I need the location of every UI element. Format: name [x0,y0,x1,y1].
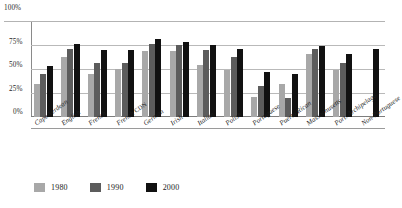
bar-1990 [67,49,73,117]
bar-1980 [197,65,203,117]
bar-1990 [312,49,318,117]
legend-swatch-icon [146,183,157,192]
bar-group [142,22,169,117]
bar-1980 [88,74,94,117]
bar-1990 [122,63,128,117]
bar-group [224,22,251,117]
legend-swatch-icon [34,183,45,192]
y-axis-tick-100: 100% [4,4,21,12]
y-axis-tick-25: 25% [9,85,22,93]
legend-label: 2000 [163,183,180,192]
bar-1980 [333,70,339,117]
legend-item-2000: 2000 [146,183,180,192]
bar-1990 [149,44,155,117]
bar-1990 [340,63,346,117]
legend-item-1990: 1990 [90,183,124,192]
bar-1990 [231,57,237,117]
bar-1990 [94,63,100,117]
bar-1980 [224,70,230,118]
bar-2000 [183,42,189,117]
legend-label: 1980 [51,183,68,192]
legend-item-1980: 1980 [34,183,68,192]
bar-1980 [251,97,257,117]
legend-label: 1990 [107,183,124,192]
y-axis-tick-0: 0% [13,108,23,116]
bar-2000 [210,45,216,117]
legend-swatch-icon [90,183,101,192]
bar-1980 [34,84,40,117]
bar-1980 [279,84,285,117]
bar-group [197,22,224,117]
bar-group [88,22,115,117]
bar-1990 [203,50,209,117]
y-axis-tick-50: 50% [9,61,22,69]
bar-1990 [176,45,182,117]
bar-2000 [101,50,107,117]
bar-2000 [237,49,243,117]
legend: 1980 1990 2000 [34,183,201,192]
bottom-rule [31,128,385,129]
bar-1980 [115,69,121,117]
bar-2000 [155,39,161,117]
bar-1980 [170,51,176,118]
y-axis-tick-75: 75% [9,38,22,46]
bar-2000 [74,44,80,117]
bar-group [170,22,197,117]
